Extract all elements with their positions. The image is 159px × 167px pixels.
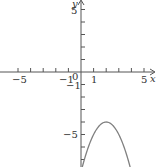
x-axis-label: x (150, 73, 156, 84)
graph: x y −5 −1 0 −1 1 5 5 −5 (0, 0, 159, 167)
y-tick-label-neg1: −1 (66, 80, 81, 91)
x-tick-label-1: 1 (91, 74, 97, 85)
parabola-curve (81, 122, 131, 167)
y-tick-label-5: 5 (71, 5, 77, 16)
y-ticks (81, 10, 85, 160)
x-tick-label-neg5: −5 (12, 74, 27, 85)
x-tick-label-5: 5 (141, 74, 147, 85)
y-tick-label-neg5: −5 (63, 129, 78, 140)
